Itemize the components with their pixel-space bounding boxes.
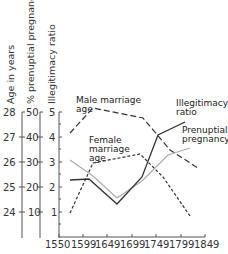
annotation-female: Female marriage age [89,135,130,163]
svg-text:50: 50 [26,107,39,118]
svg-text:25: 25 [3,182,16,193]
svg-text:4: 4 [49,132,55,143]
y-axis-age-ticks: 28 27 26 25 24 [3,107,16,218]
svg-text:20: 20 [26,182,39,193]
svg-text:1550: 1550 [45,239,70,250]
axis-title-prenuptial: % prenuptial pregnancy [25,0,36,104]
svg-text:pregnancy: pregnancy [182,134,228,144]
svg-text:40: 40 [26,132,39,143]
svg-text:2: 2 [49,182,55,193]
y-axis-prenuptial [37,112,43,238]
annotation-prenuptial: Prenuptial pregnancy [182,125,228,144]
svg-text:1849: 1849 [194,239,219,250]
svg-text:3: 3 [49,157,55,168]
series-illegitimacy-ratio [70,122,185,204]
svg-text:26: 26 [3,157,16,168]
x-axis [59,234,205,237]
annotation-illegitimacy: Illegitimacy ratio [176,98,228,117]
axis-title-illegitimacy: Illegitimacy ratio [46,24,57,104]
svg-text:1649: 1649 [95,239,120,250]
axis-title-age: Age in years [5,45,16,104]
svg-text:age: age [76,104,93,114]
svg-text:30: 30 [26,157,39,168]
y-axis-prenuptial-ticks: 50 40 30 20 10 [26,107,41,218]
y-axis-illegitimacy-ticks: 5 4 3 2 1 [49,107,57,218]
svg-text:28: 28 [3,107,16,118]
svg-text:1799: 1799 [169,239,194,250]
y-axis-illegitimacy [59,112,62,238]
svg-text:1699: 1699 [120,239,145,250]
svg-text:1: 1 [51,207,57,218]
y-axis-age [19,112,25,238]
svg-text:age: age [89,153,106,163]
svg-text:10: 10 [28,207,41,218]
svg-text:1599: 1599 [71,239,96,250]
svg-text:24: 24 [3,207,16,218]
svg-text:ratio: ratio [176,107,197,117]
svg-text:5: 5 [49,107,55,118]
series-female-marriage-age [70,154,190,216]
x-axis-ticks: 1550 1599 1649 1699 1749 1799 1849 [45,239,219,250]
svg-text:27: 27 [3,132,16,143]
chart: Age in years % prenuptial pregnancy Ille… [0,0,228,254]
svg-text:1749: 1749 [144,239,169,250]
